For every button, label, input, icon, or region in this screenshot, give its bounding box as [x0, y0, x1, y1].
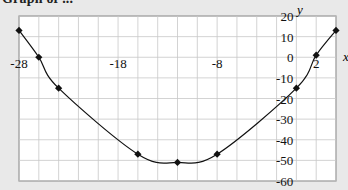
svg-text:-28: -28	[10, 56, 27, 71]
svg-text:-50: -50	[276, 153, 293, 168]
chart: 20100-10-20-30-40-50-60-28-18-82 y x	[0, 0, 348, 190]
svg-text:-60: -60	[276, 174, 293, 189]
x-axis-label: x	[342, 49, 348, 64]
svg-text:20: 20	[280, 9, 293, 24]
svg-text:-40: -40	[276, 133, 293, 148]
y-axis-label: y	[295, 2, 303, 17]
svg-text:-18: -18	[109, 56, 126, 71]
svg-text:0: 0	[287, 50, 294, 65]
svg-text:-30: -30	[276, 112, 293, 127]
svg-text:10: 10	[280, 30, 293, 45]
svg-text:-10: -10	[276, 71, 293, 86]
svg-text:-8: -8	[212, 56, 223, 71]
